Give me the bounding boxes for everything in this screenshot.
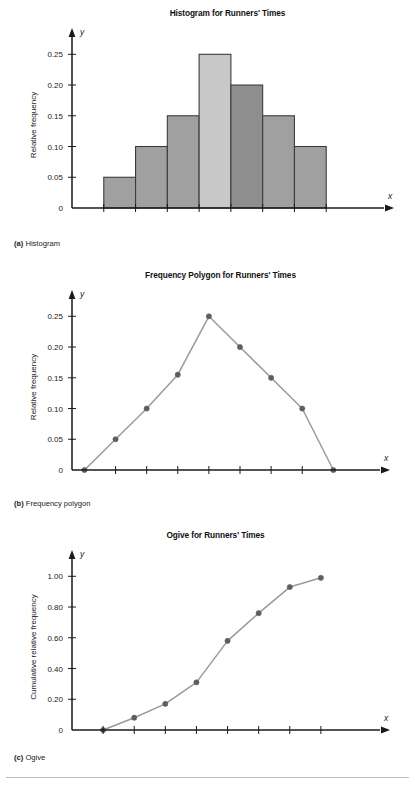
histogram-bar bbox=[199, 54, 231, 208]
x-tick-label: 35.5 bbox=[282, 738, 298, 740]
caption-c-tag: (c) bbox=[14, 753, 23, 762]
data-point-marker bbox=[269, 375, 274, 380]
ogive-plot: yx00.200.400.600.801.005.510.515.520.525… bbox=[0, 540, 415, 740]
data-point-marker bbox=[144, 406, 149, 411]
histogram-plot: yx00.050.100.150.200.255.510.515.520.525… bbox=[0, 18, 415, 218]
data-point-marker bbox=[237, 344, 242, 349]
caption-a-text: Histogram bbox=[25, 239, 60, 248]
y-tick-label: 0.40 bbox=[47, 665, 63, 674]
data-point-marker bbox=[194, 680, 199, 685]
y-tick-label: 0.10 bbox=[47, 143, 63, 152]
caption-c-text: Ogive bbox=[25, 753, 45, 762]
y-tick-label: 0.05 bbox=[47, 173, 63, 182]
data-point-marker bbox=[287, 584, 292, 589]
x-axis-variable-label: x bbox=[383, 713, 389, 723]
x-tick-label: 28 bbox=[236, 478, 245, 480]
histogram-bar bbox=[167, 116, 199, 208]
x-tick-label: 35.5 bbox=[287, 216, 303, 218]
y-tick-label: 0.80 bbox=[47, 603, 63, 612]
data-point-marker bbox=[300, 406, 305, 411]
x-tick-label: 15.5 bbox=[160, 216, 176, 218]
frequency-polygon-plot: yx00.050.100.150.200.258131823283338Mile… bbox=[0, 280, 415, 480]
frequency-polygon-svg: yx00.050.100.150.200.258131823283338Mile… bbox=[0, 280, 415, 480]
x-tick-label: 30.5 bbox=[251, 738, 267, 740]
panel-ogive: Ogive for Runners' Times yx00.200.400.60… bbox=[0, 522, 415, 774]
x-axis-arrow bbox=[385, 204, 394, 211]
x-tick-label: 40.5 bbox=[318, 216, 334, 218]
y-tick-label: 0.25 bbox=[47, 312, 63, 321]
y-tick-label: 0.20 bbox=[47, 81, 63, 90]
histogram-bar bbox=[231, 85, 263, 208]
x-tick-label: 18 bbox=[173, 478, 182, 480]
data-point-marker bbox=[318, 575, 323, 580]
y-tick-label: 0.05 bbox=[47, 435, 63, 444]
x-axis-variable-label: x bbox=[387, 191, 393, 201]
x-tick-label: 10.5 bbox=[126, 738, 142, 740]
histogram-bar bbox=[136, 147, 168, 208]
y-tick-label: 1.00 bbox=[47, 572, 63, 581]
caption-b-text: Frequency polygon bbox=[26, 499, 91, 508]
y-axis-variable-label: y bbox=[79, 27, 85, 37]
histogram-svg: yx00.050.100.150.200.255.510.515.520.525… bbox=[0, 18, 415, 218]
frequency-polygon-title: Frequency Polygon for Runners' Times bbox=[0, 270, 415, 280]
data-point-marker bbox=[206, 314, 211, 319]
panel-frequency-polygon: Frequency Polygon for Runners' Times yx0… bbox=[0, 262, 415, 522]
x-tick-label: 30.5 bbox=[255, 216, 271, 218]
histogram-bar bbox=[104, 177, 136, 208]
y-tick-label: 0.25 bbox=[47, 50, 63, 59]
statistics-figure: Histogram for Runners' Times yx00.050.10… bbox=[0, 0, 415, 789]
ogive-svg: yx00.200.400.600.801.005.510.515.520.525… bbox=[0, 540, 415, 740]
data-point-marker bbox=[113, 437, 118, 442]
data-point-marker bbox=[163, 701, 168, 706]
histogram-bar bbox=[294, 147, 326, 208]
x-tick-label: 5.5 bbox=[98, 738, 110, 740]
x-tick-label: 15.5 bbox=[158, 738, 174, 740]
footer-divider bbox=[6, 777, 409, 778]
y-axis-arrow bbox=[69, 290, 76, 299]
x-tick-label: 13 bbox=[142, 478, 151, 480]
caption-c: (c) Ogive bbox=[14, 753, 45, 762]
y-tick-label: 0.20 bbox=[47, 343, 63, 352]
caption-a: (a) Histogram bbox=[14, 239, 60, 248]
x-tick-label: 20.5 bbox=[189, 738, 205, 740]
x-tick-label: 25.5 bbox=[223, 216, 239, 218]
data-line bbox=[84, 316, 333, 470]
histogram-title: Histogram for Runners' Times bbox=[0, 8, 415, 18]
caption-b-tag: (b) bbox=[14, 499, 24, 508]
y-axis-arrow bbox=[69, 28, 76, 37]
caption-b: (b) Frequency polygon bbox=[14, 499, 90, 508]
y-tick-label: 0 bbox=[59, 204, 64, 213]
x-tick-label: 20.5 bbox=[191, 216, 207, 218]
y-axis-arrow bbox=[69, 550, 76, 559]
y-axis-title: Cumulative relative frequency bbox=[29, 594, 38, 699]
y-tick-label: 0.10 bbox=[47, 405, 63, 414]
x-tick-label: 10.5 bbox=[128, 216, 144, 218]
x-tick-label: 25.5 bbox=[220, 738, 236, 740]
data-point-marker bbox=[225, 638, 230, 643]
y-axis-title: Relative frequency bbox=[29, 92, 38, 158]
x-tick-label: 23 bbox=[204, 478, 213, 480]
y-tick-label: 0 bbox=[59, 726, 64, 735]
data-line bbox=[103, 578, 321, 730]
x-tick-label: 33 bbox=[267, 478, 276, 480]
y-axis-title: Relative frequency bbox=[29, 354, 38, 420]
y-tick-label: 0 bbox=[59, 466, 64, 475]
y-tick-label: 0.60 bbox=[47, 634, 63, 643]
x-axis-arrow bbox=[381, 466, 390, 473]
x-axis-arrow bbox=[381, 726, 390, 733]
x-tick-label: 8 bbox=[113, 478, 118, 480]
ogive-title: Ogive for Runners' Times bbox=[0, 530, 415, 540]
histogram-bar bbox=[263, 116, 295, 208]
data-point-marker bbox=[175, 372, 180, 377]
y-tick-label: 0.15 bbox=[47, 374, 63, 383]
data-point-marker bbox=[256, 611, 261, 616]
x-tick-label: 40.5 bbox=[313, 738, 329, 740]
y-tick-label: 0.15 bbox=[47, 112, 63, 121]
y-axis-variable-label: y bbox=[79, 549, 85, 559]
data-point-marker bbox=[132, 715, 137, 720]
x-tick-label: 38 bbox=[298, 478, 307, 480]
y-axis-variable-label: y bbox=[79, 289, 85, 299]
x-tick-label: 5.5 bbox=[98, 216, 110, 218]
caption-a-tag: (a) bbox=[14, 239, 23, 248]
y-tick-label: 0.20 bbox=[47, 695, 63, 704]
